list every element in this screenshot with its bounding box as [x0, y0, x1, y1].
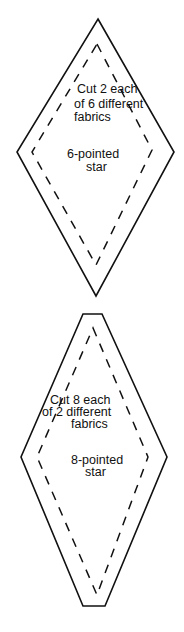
- star-name-line-2: star: [86, 160, 107, 174]
- cut-instruction-line-3: fabrics: [71, 417, 108, 431]
- eight-point-diamond-template: Cut 8 each of 2 different fabrics 8-poin…: [21, 314, 167, 606]
- cut-instruction-line-1: Cut 2 each: [77, 82, 138, 96]
- cut-instruction-line-3: fabrics: [74, 110, 111, 124]
- cut-instruction-line-2: of 6 different: [74, 97, 144, 111]
- six-point-diamond-template: Cut 2 each of 6 different fabrics 6-poin…: [17, 19, 174, 296]
- quilt-templates-diagram: Cut 2 each of 6 different fabrics 6-poin…: [0, 0, 184, 632]
- star-name-line-2: star: [85, 465, 106, 479]
- star-name-line-1: 6-pointed: [67, 147, 119, 161]
